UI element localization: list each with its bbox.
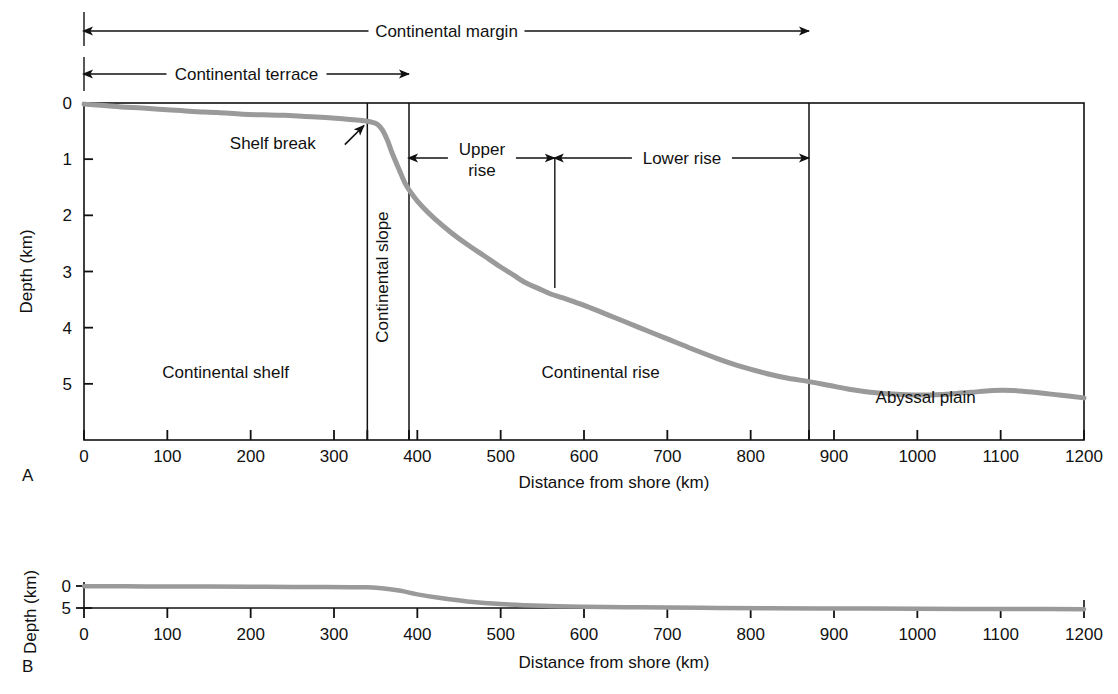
panel-b-xtick-label-800: 800 [736,625,764,644]
panel-a-letter: A [22,466,34,485]
panel-a-xtick-label-100: 100 [153,447,181,466]
panel-b-y-axis-title: Depth (km) [21,570,40,654]
panel-b-xtick-label-1100: 1100 [982,625,1019,644]
continental-margin-bracket: Continental margin [84,12,809,46]
region-label-continental-shelf: Continental shelf [162,363,289,382]
panel-a-xtick-label-1100: 1100 [982,447,1019,466]
panel-a-x-axis-title: Distance from shore (km) [519,473,710,492]
panel-b-ytick-label-0: 0 [62,577,71,596]
region-label-abyssal-plain: Abyssal plain [876,388,976,407]
panel-a-xtick-label-900: 900 [820,447,848,466]
panel-a-ytick-label-5: 5 [63,375,72,394]
upper-rise-label-line1: Upper [459,140,506,159]
panel-a-xtick-label-400: 400 [403,447,431,466]
lower-rise-bracket: Lower rise [555,149,809,168]
panel-b-ytick-label-5: 5 [62,599,71,618]
upper-rise-bracket: Upperrise [409,140,555,180]
panel-a-ytick-label-2: 2 [63,206,72,225]
continental-terrace-bracket: Continental terrace [84,57,409,91]
panel-a-xtick-label-600: 600 [570,447,598,466]
panel-a-axes: 012345Depth (km)010020030040050060070080… [17,94,1103,492]
panel-a-ytick-label-3: 3 [63,263,72,282]
panel-a-xtick-label-700: 700 [653,447,681,466]
bracket-group: Continental marginContinental terraceUpp… [84,12,809,180]
region-label-continental-slope: Continental slope [373,211,392,342]
panel-b-xtick-label-600: 600 [570,625,598,644]
continental-terrace-label: Continental terrace [175,65,319,84]
shelf-break-label: Shelf break [230,134,316,153]
panel-b-xtick-label-1000: 1000 [898,625,936,644]
panel-b-xtick-label-700: 700 [653,625,681,644]
upper-rise-label-line2: rise [468,161,495,180]
continental-margin-label: Continental margin [375,22,518,41]
panel-b-letter: B [22,657,33,676]
panel-a-y-axis-title: Depth (km) [17,229,36,313]
shelf-break-pointer-arrow [345,125,364,144]
panel-a-xtick-label-1000: 1000 [898,447,936,466]
panel-a-xtick-label-500: 500 [486,447,514,466]
panel-a-xtick-label-0: 0 [79,447,88,466]
panel-a-xtick-label-1200: 1200 [1065,447,1103,466]
region-label-continental-rise: Continental rise [542,363,660,382]
panel-b-xtick-label-0: 0 [79,625,88,644]
panel-a-ytick-label-4: 4 [63,319,72,338]
ocean-margin-profile-figure: Continental marginContinental terraceUpp… [0,0,1118,694]
panel-b-xtick-label-1200: 1200 [1065,625,1103,644]
panel-b-xtick-label-200: 200 [236,625,264,644]
panel-a-ytick-label-0: 0 [63,94,72,113]
panel-b-xtick-label-300: 300 [320,625,348,644]
figure-container: Continental marginContinental terraceUpp… [0,0,1118,694]
panel-b-seafloor-profile [84,586,1084,609]
panel-a-xtick-label-800: 800 [736,447,764,466]
panel-b-xtick-label-500: 500 [486,625,514,644]
panel-a-ytick-label-1: 1 [63,150,72,169]
panel-b-xtick-label-900: 900 [820,625,848,644]
panel-b-profile-group [84,586,1084,609]
panel-b-xtick-label-100: 100 [153,625,181,644]
panel-a-xtick-label-300: 300 [320,447,348,466]
panel-a-labels: Continental shelfContinental slopeContin… [162,125,975,407]
panel-b-xtick-label-400: 400 [403,625,431,644]
panel-a-xtick-label-200: 200 [236,447,264,466]
lower-rise-label: Lower rise [643,149,721,168]
panel-b-x-axis-title: Distance from shore (km) [519,653,710,672]
